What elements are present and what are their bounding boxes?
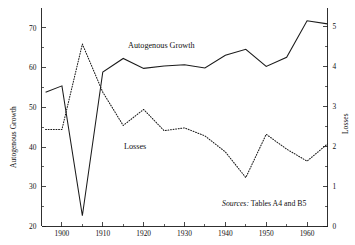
right-tick-label: 1 xyxy=(333,182,337,191)
source-note-keyword: Sources: xyxy=(222,199,249,208)
left-axis-tick-labels: 203040506070 xyxy=(29,24,37,232)
right-axis-tick-labels: 012345 xyxy=(333,22,337,231)
left-tick-label: 70 xyxy=(29,24,37,33)
x-tick-label: 1920 xyxy=(136,229,151,238)
right-tick-label: 5 xyxy=(333,22,337,31)
right-axis-title: Losses xyxy=(341,113,350,134)
x-tick-label: 1950 xyxy=(259,229,274,238)
series-annotation-autogenous-growth: Autogenous Growth xyxy=(128,41,195,50)
x-tick-label: 1910 xyxy=(95,229,110,238)
left-axis-title: Autogenous Growth xyxy=(9,106,18,168)
left-tick-label: 30 xyxy=(29,182,37,191)
source-note-text: Tables A4 and B5 xyxy=(249,199,306,208)
right-tick-label: 0 xyxy=(333,222,337,231)
chart-canvas: 203040506070 012345 19001910192019301940… xyxy=(0,0,355,245)
right-tick-label: 2 xyxy=(333,142,337,151)
left-tick-label: 50 xyxy=(29,103,37,112)
left-axis-ticks xyxy=(42,28,47,227)
left-tick-label: 40 xyxy=(29,143,37,152)
bottom-axis-tick-labels: 1900191019201930194019501960 xyxy=(55,229,315,238)
left-tick-label: 60 xyxy=(29,63,37,72)
x-tick-label: 1900 xyxy=(55,229,70,238)
right-tick-label: 4 xyxy=(333,62,337,71)
source-note: Sources: Tables A4 and B5 xyxy=(222,199,306,208)
x-tick-label: 1940 xyxy=(218,229,233,238)
right-axis-ticks xyxy=(323,26,328,226)
right-tick-label: 3 xyxy=(333,102,337,111)
series-line-losses xyxy=(46,44,328,178)
left-tick-label: 20 xyxy=(29,222,37,231)
chart-figure: 203040506070 012345 19001910192019301940… xyxy=(0,0,355,245)
series-annotation-losses: Losses xyxy=(124,142,146,151)
x-tick-label: 1930 xyxy=(177,229,192,238)
bottom-axis-ticks xyxy=(62,222,307,227)
x-tick-label: 1960 xyxy=(300,229,315,238)
